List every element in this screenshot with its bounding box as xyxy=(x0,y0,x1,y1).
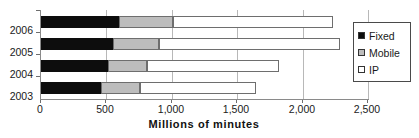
stacked-bar-chart: 2006 2005 2004 2003 xyxy=(0,0,419,138)
legend-label-fixed: Fixed xyxy=(369,30,395,42)
legend-label-ip: IP xyxy=(369,64,379,76)
bar-segment-mobile-2003 xyxy=(101,82,140,94)
bar-segment-mobile-2006 xyxy=(119,16,173,28)
bar-segment-ip-2004 xyxy=(147,60,279,72)
bar-segment-fixed-2004 xyxy=(41,60,108,72)
y-axis-tick-label-2005: 2005 xyxy=(10,46,33,58)
legend-item-ip: IP xyxy=(358,61,410,78)
bar-segment-fixed-2005 xyxy=(41,38,113,50)
y-axis-tick-label-2004: 2004 xyxy=(10,68,33,80)
x-axis-tick-labels: 0 500 1,000 1,500 2,000 2,500 xyxy=(0,100,419,114)
legend-swatch-mobile-icon xyxy=(358,49,365,56)
bar-segment-fixed-2006 xyxy=(41,16,119,28)
bar-segment-ip-2006 xyxy=(173,16,333,28)
legend-label-mobile: Mobile xyxy=(369,47,400,59)
y-axis-tick-label-2006: 2006 xyxy=(10,24,33,36)
x-axis-tick-label-0: 0 xyxy=(37,103,43,115)
y-axis-category-labels: 2006 2005 2004 2003 xyxy=(0,10,36,99)
x-axis-tick-label-1000: 1,000 xyxy=(158,103,184,115)
bar-segment-ip-2005 xyxy=(159,38,340,50)
x-axis-tick-label-500: 500 xyxy=(96,103,114,115)
bar-segment-mobile-2004 xyxy=(108,60,147,72)
x-axis-tick-label-2000: 2,000 xyxy=(289,103,315,115)
plot-area xyxy=(40,10,368,99)
x-axis-tick-label-1500: 1,500 xyxy=(223,103,249,115)
x-axis-title: Millions of minutes xyxy=(40,118,368,130)
legend-item-mobile: Mobile xyxy=(358,44,410,61)
chart-legend: Fixed Mobile IP xyxy=(353,22,411,82)
bar-segment-mobile-2005 xyxy=(113,38,159,50)
legend-item-fixed: Fixed xyxy=(358,27,410,44)
bar-segment-ip-2003 xyxy=(140,82,256,94)
x-axis-tick-label-2500: 2,500 xyxy=(354,103,380,115)
legend-swatch-ip-icon xyxy=(358,66,365,73)
legend-swatch-fixed-icon xyxy=(358,32,365,39)
bar-segment-fixed-2003 xyxy=(41,82,101,94)
